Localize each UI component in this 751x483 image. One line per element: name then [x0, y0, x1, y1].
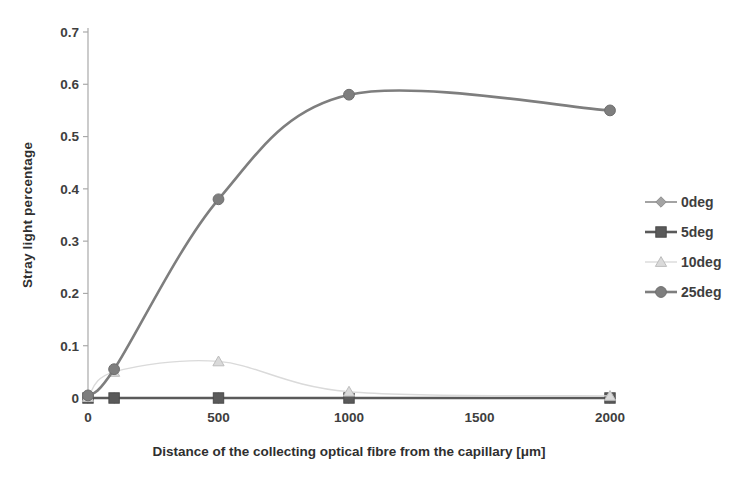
y-tick-label: 0.5 — [60, 129, 79, 144]
x-tick-label: 1500 — [464, 410, 494, 425]
legend-square-swatch-icon — [644, 223, 678, 241]
legend-triangle-swatch-icon — [644, 253, 678, 271]
legend-label: 5deg — [681, 224, 714, 240]
legend-circle-swatch-icon — [644, 283, 678, 301]
circle-marker-icon — [605, 105, 616, 116]
x-axis-title: Distance of the collecting optical fibre… — [152, 444, 545, 459]
legend: 0deg5deg10deg25deg — [644, 190, 721, 304]
legend-item-5deg: 5deg — [644, 220, 721, 244]
y-tick-label: 0.2 — [60, 286, 79, 301]
x-tick-label: 500 — [207, 410, 230, 425]
y-tick-label: 0.1 — [60, 339, 79, 354]
series-markers-25deg — [83, 89, 616, 401]
chart-figure: 00.10.20.30.40.50.60.70500100015002000 S… — [0, 0, 751, 483]
square-marker-icon — [656, 227, 666, 237]
legend-label: 10deg — [681, 254, 721, 270]
square-marker-icon — [213, 393, 223, 403]
y-tick-label: 0 — [71, 391, 79, 406]
y-axis-title: Stray light percentage — [20, 142, 35, 288]
y-tick-label: 0.7 — [60, 25, 79, 40]
chart-canvas: 00.10.20.30.40.50.60.70500100015002000 — [0, 0, 751, 483]
square-marker-icon — [109, 393, 119, 403]
y-tick-label: 0.6 — [60, 77, 79, 92]
circle-marker-icon — [109, 364, 120, 375]
series-line-25deg — [88, 90, 610, 395]
legend-item-0deg: 0deg — [644, 190, 721, 214]
y-tick-label: 0.3 — [60, 234, 79, 249]
diamond-marker-icon — [656, 197, 666, 207]
legend-item-25deg: 25deg — [644, 280, 721, 304]
x-tick-label: 1000 — [334, 410, 364, 425]
x-tick-label: 2000 — [595, 410, 625, 425]
legend-diamond-swatch-icon — [644, 193, 678, 211]
legend-label: 25deg — [681, 284, 721, 300]
circle-marker-icon — [213, 194, 224, 205]
legend-label: 0deg — [681, 194, 714, 210]
circle-marker-icon — [83, 390, 94, 401]
y-tick-label: 0.4 — [60, 182, 79, 197]
circle-marker-icon — [344, 89, 355, 100]
legend-item-10deg: 10deg — [644, 250, 721, 274]
circle-marker-icon — [656, 287, 667, 298]
x-tick-label: 0 — [84, 410, 92, 425]
